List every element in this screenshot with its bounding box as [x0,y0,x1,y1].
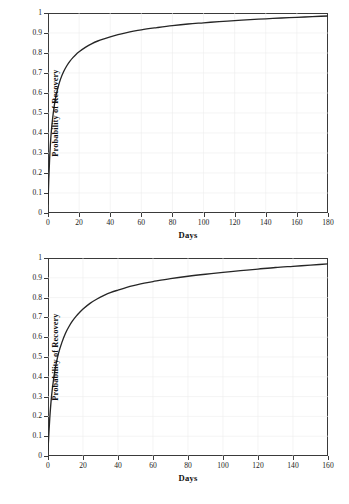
y-axis-title-chart-1: Probability of Recovery [51,69,60,156]
x-tick-mark [48,456,49,460]
y-tick-mark [44,33,48,34]
x-tick-mark [153,456,154,460]
x-tick-label: 20 [79,462,87,470]
y-tick-mark [44,397,48,398]
y-tick-mark [44,357,48,358]
x-tick-mark [188,456,189,460]
x-tick-label: 160 [291,219,302,227]
x-tick-mark [48,213,49,217]
x-tick-label: 80 [169,219,177,227]
x-tick-label: 180 [322,219,333,227]
x-tick-label: 40 [106,219,114,227]
figure-container: 02040608010012014016018000.10.20.30.40.5… [0,0,349,504]
x-tick-mark [328,456,329,460]
y-tick-label: 0 [38,209,42,217]
y-tick-mark [44,113,48,114]
x-tick-mark [297,213,298,217]
y-tick-mark [44,153,48,154]
data-series-line [48,16,328,204]
x-tick-label: 140 [260,219,271,227]
x-tick-mark [258,456,259,460]
y-tick-label: 1 [38,254,42,262]
y-tick-label: 0.8 [33,294,43,302]
y-tick-label: 0.9 [33,274,43,282]
y-tick-mark [44,193,48,194]
y-tick-mark [44,317,48,318]
x-tick-label: 120 [252,462,263,470]
y-tick-label: 0.6 [33,89,43,97]
x-tick-mark [83,456,84,460]
x-tick-label: 40 [114,462,122,470]
x-tick-mark [141,213,142,217]
y-tick-label: 0.3 [33,393,43,401]
y-tick-mark [44,173,48,174]
x-tick-mark [110,213,111,217]
x-axis-title-chart-2: Days [179,473,198,483]
x-tick-label: 0 [46,462,50,470]
y-tick-mark [44,13,48,14]
y-tick-mark [44,258,48,259]
plot-area-chart-2 [48,258,328,456]
y-tick-mark [44,416,48,417]
axes-chart-2: 02040608010012014016000.10.20.30.40.50.6… [48,258,328,456]
y-tick-label: 0.6 [33,333,43,341]
x-tick-mark [223,456,224,460]
y-tick-mark [44,337,48,338]
y-tick-mark [44,436,48,437]
x-tick-label: 100 [217,462,228,470]
y-tick-mark [44,298,48,299]
y-tick-label: 0.2 [33,413,43,421]
chart-panel-top: 02040608010012014016018000.10.20.30.40.5… [0,0,349,252]
x-tick-mark [266,213,267,217]
chart-panel-bottom: 02040608010012014016000.10.20.30.40.50.6… [0,246,349,504]
x-tick-mark [204,213,205,217]
y-tick-mark [44,278,48,279]
plot-area-chart-1 [48,13,328,213]
y-tick-mark [44,53,48,54]
y-tick-label: 0.1 [33,189,43,197]
y-tick-label: 0.7 [33,314,43,322]
x-tick-label: 100 [198,219,209,227]
y-tick-mark [44,213,48,214]
y-tick-mark [44,133,48,134]
y-tick-mark [44,73,48,74]
y-tick-label: 0.9 [33,29,43,37]
y-tick-mark [44,377,48,378]
y-tick-label: 0 [38,452,42,460]
x-tick-label: 160 [322,462,333,470]
y-tick-label: 1 [38,9,42,17]
x-tick-label: 60 [138,219,146,227]
x-axis-title-chart-1: Days [179,230,198,240]
y-tick-label: 0.5 [33,109,43,117]
x-tick-label: 140 [287,462,298,470]
y-tick-label: 0.4 [33,129,43,137]
x-tick-label: 120 [229,219,240,227]
y-tick-label: 0.4 [33,373,43,381]
x-tick-mark [293,456,294,460]
y-tick-label: 0.7 [33,69,43,77]
y-tick-mark [44,456,48,457]
x-tick-mark [79,213,80,217]
y-tick-label: 0.2 [33,169,43,177]
x-tick-mark [328,213,329,217]
y-tick-label: 0.8 [33,49,43,57]
x-tick-label: 20 [75,219,83,227]
x-tick-label: 60 [149,462,157,470]
x-tick-mark [172,213,173,217]
y-axis-title-chart-2: Probability of Recovery [51,313,60,400]
axes-chart-1: 02040608010012014016018000.10.20.30.40.5… [48,13,328,213]
y-tick-label: 0.3 [33,149,43,157]
y-tick-label: 0.5 [33,353,43,361]
y-tick-label: 0.1 [33,432,43,440]
x-tick-mark [118,456,119,460]
x-tick-label: 0 [46,219,50,227]
x-tick-label: 80 [184,462,192,470]
y-tick-mark [44,93,48,94]
x-tick-mark [235,213,236,217]
